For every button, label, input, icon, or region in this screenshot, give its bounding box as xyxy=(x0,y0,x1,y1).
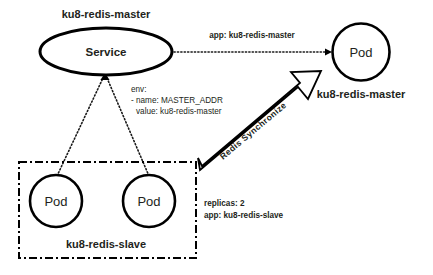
slave-annotation-line-2: app: ku8-redis-slave xyxy=(204,211,284,220)
selector-link-master xyxy=(174,49,332,56)
slave-group-annotation: replicas: 2 app: ku8-redis-slave xyxy=(204,199,284,220)
master-pod-caption: ku8-redis-master xyxy=(317,88,406,100)
selector-link-label: app: ku8-redis-master xyxy=(209,31,295,40)
service-node-label: Service xyxy=(86,46,127,58)
env-annotation-line-2: - name: MASTER_ADDR xyxy=(131,96,223,105)
slave-pod-2-label: Pod xyxy=(137,194,160,209)
slave-annotation-line-1: replicas: 2 xyxy=(204,199,245,208)
slave-group-caption: ku8-redis-slave xyxy=(66,238,146,250)
selector-link-arrowhead xyxy=(325,49,332,56)
slave-pod-1-label: Pod xyxy=(44,194,67,209)
diagram-canvas: Redis Synchronize ku8-redis-master Servi… xyxy=(0,0,433,275)
env-annotation-line-3: value: ku8-redis-master xyxy=(136,107,222,116)
env-annotation: env: - name: MASTER_ADDR value: ku8-redi… xyxy=(131,85,223,116)
redis-synchronize-arrow: Redis Synchronize xyxy=(198,71,321,170)
redis-synchronize-arrow-label: Redis Synchronize xyxy=(218,100,289,161)
master-service-title: ku8-redis-master xyxy=(62,8,151,20)
master-pod-label: Pod xyxy=(349,45,372,60)
env-annotation-line-1: env: xyxy=(131,85,146,94)
